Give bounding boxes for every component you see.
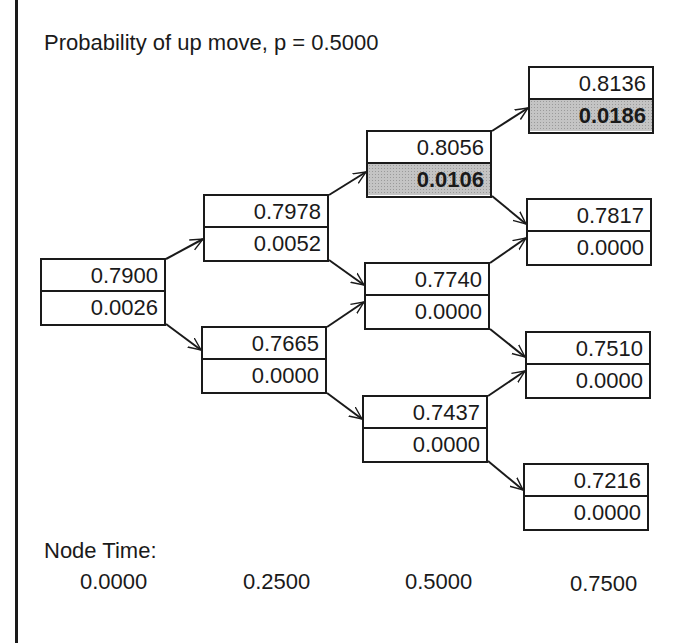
node-time-value: 0.2500 xyxy=(243,569,310,595)
node-value: 0.7437 xyxy=(364,397,486,429)
node-time-value: 0.7500 xyxy=(570,571,637,597)
edge-n1u-n2uu xyxy=(329,172,366,195)
edge-n0-n1d xyxy=(166,324,201,350)
edge-n2ud-n3c xyxy=(490,329,525,357)
tree-node-highlighted: 0.8136 0.0186 xyxy=(528,66,654,134)
node-sub-value: 0.0000 xyxy=(203,360,325,391)
node-value: 0.7665 xyxy=(203,328,325,360)
node-value: 0.8136 xyxy=(530,68,652,100)
node-value: 0.7740 xyxy=(366,264,488,296)
edge-n1u-n2ud xyxy=(329,260,364,285)
node-sub-value: 0.0000 xyxy=(528,232,650,263)
tree-node: 0.7510 0.0000 xyxy=(525,331,651,399)
edge-n2uu-n3b xyxy=(492,196,526,224)
node-sub-value: 0.0026 xyxy=(42,292,164,323)
tree-node: 0.7900 0.0026 xyxy=(40,258,166,326)
node-value: 0.7510 xyxy=(527,333,649,365)
node-sub-value: 0.0000 xyxy=(366,296,488,327)
node-sub-value: 0.0052 xyxy=(205,228,327,259)
tree-node: 0.7665 0.0000 xyxy=(201,326,327,394)
node-value: 0.8056 xyxy=(368,132,490,164)
tree-node: 0.7437 0.0000 xyxy=(362,395,488,463)
node-sub-value: 0.0000 xyxy=(364,429,486,460)
node-time-value: 0.0000 xyxy=(80,569,147,595)
node-sub-value-highlighted: 0.0106 xyxy=(368,164,490,195)
tree-node: 0.7978 0.0052 xyxy=(203,194,329,262)
node-value: 0.7817 xyxy=(528,200,650,232)
node-value: 0.7900 xyxy=(42,260,164,292)
node-value: 0.7216 xyxy=(525,465,647,497)
node-value: 0.7978 xyxy=(205,196,327,228)
edge-n2ud-n3b xyxy=(490,238,526,263)
node-sub-value: 0.0000 xyxy=(525,497,647,528)
node-time-value: 0.5000 xyxy=(405,569,472,595)
edge-n1d-n2ud xyxy=(327,302,364,327)
edge-n2dd-n3d xyxy=(488,461,523,490)
node-time-label: Node Time: xyxy=(44,538,157,564)
tree-node: 0.7817 0.0000 xyxy=(526,198,652,266)
tree-node: 0.7740 0.0000 xyxy=(364,262,490,330)
node-sub-value: 0.0000 xyxy=(527,365,649,396)
edge-n2uu-n3a xyxy=(492,108,528,131)
edge-n0-n1u xyxy=(166,239,203,259)
tree-node-highlighted: 0.8056 0.0106 xyxy=(366,130,492,198)
node-sub-value-highlighted: 0.0186 xyxy=(530,100,652,131)
edge-n2dd-n3c xyxy=(488,371,525,396)
edge-n1d-n2dd xyxy=(327,393,362,419)
tree-node: 0.7216 0.0000 xyxy=(523,463,649,531)
